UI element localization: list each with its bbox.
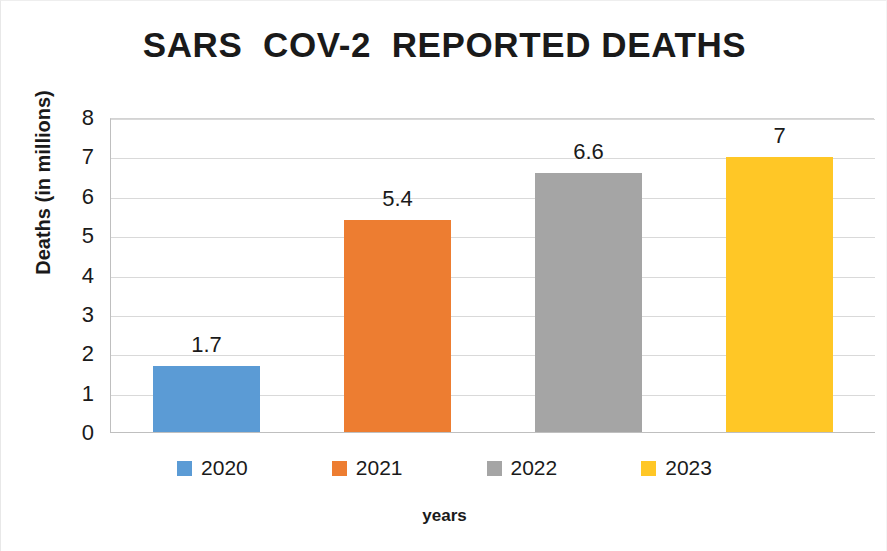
legend-item-2020[interactable]: 2020 bbox=[177, 456, 248, 480]
legend-swatch-icon bbox=[332, 461, 347, 476]
x-axis-line bbox=[111, 432, 875, 433]
bar-chart-figure: SARS COV-2 REPORTED DEATHS Deaths (in mi… bbox=[0, 0, 887, 551]
bar-value-label: 7 bbox=[773, 123, 785, 149]
gridline bbox=[111, 119, 875, 120]
y-axis-tick-label: 7 bbox=[54, 144, 94, 170]
y-axis-tick-label: 4 bbox=[54, 263, 94, 289]
bar-value-label: 1.7 bbox=[191, 332, 222, 358]
y-axis-tick-label: 8 bbox=[54, 105, 94, 131]
chart-legend: 2020202120222023 bbox=[1, 456, 887, 480]
legend-label: 2020 bbox=[201, 456, 248, 480]
bar-2022 bbox=[535, 173, 642, 433]
bar-value-label: 6.6 bbox=[573, 139, 604, 165]
bar-2021 bbox=[344, 220, 451, 433]
y-axis-tick-label: 6 bbox=[54, 184, 94, 210]
legend-item-2021[interactable]: 2021 bbox=[332, 456, 403, 480]
plot-area: 1.75.46.67 bbox=[110, 118, 874, 433]
legend-label: 2023 bbox=[665, 456, 712, 480]
legend-label: 2022 bbox=[511, 456, 558, 480]
y-axis-tick-label: 5 bbox=[54, 223, 94, 249]
y-axis-tick-labels: 012345678 bbox=[46, 118, 94, 433]
legend-item-2023[interactable]: 2023 bbox=[641, 456, 712, 480]
legend-item-2022[interactable]: 2022 bbox=[487, 456, 558, 480]
y-axis-tick-label: 1 bbox=[54, 381, 94, 407]
legend-swatch-icon bbox=[487, 461, 502, 476]
bar-2023 bbox=[726, 157, 833, 433]
y-axis-tick-label: 2 bbox=[54, 341, 94, 367]
chart-title: SARS COV-2 REPORTED DEATHS bbox=[1, 25, 887, 65]
bar-value-label: 5.4 bbox=[382, 186, 413, 212]
y-axis-tick-label: 0 bbox=[54, 420, 94, 446]
legend-swatch-icon bbox=[641, 461, 656, 476]
y-axis-tick-label: 3 bbox=[54, 302, 94, 328]
legend-swatch-icon bbox=[177, 461, 192, 476]
bar-2020 bbox=[153, 366, 260, 433]
legend-label: 2021 bbox=[356, 456, 403, 480]
x-axis-title: years bbox=[1, 506, 887, 526]
